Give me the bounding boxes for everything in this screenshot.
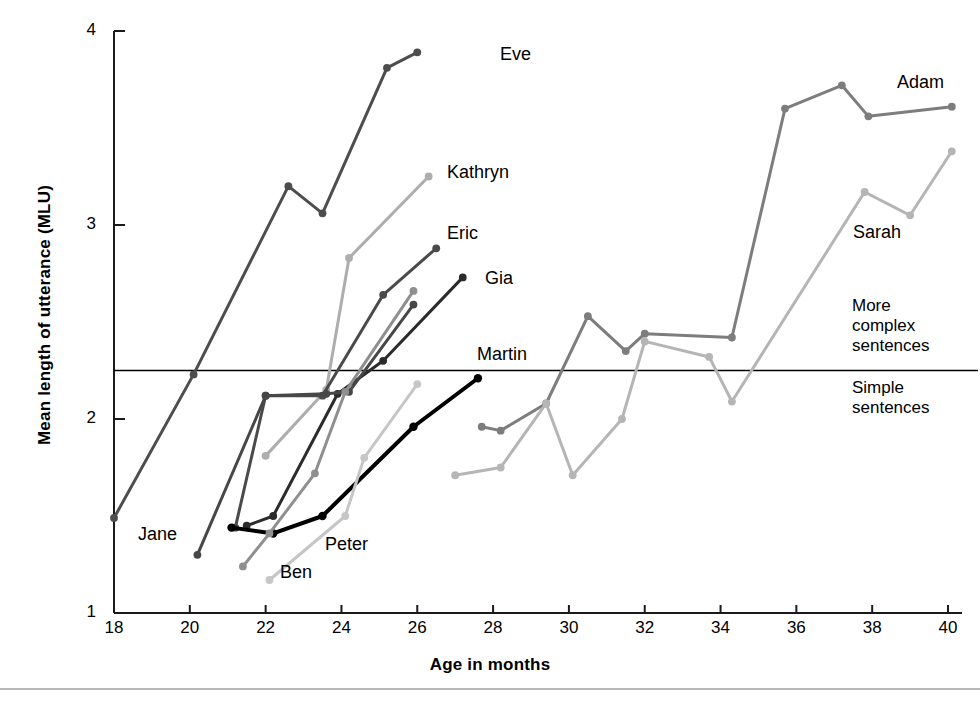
x-tick-36: 36 — [776, 618, 816, 638]
x-tick-24: 24 — [321, 618, 361, 638]
series-label-adam: Adam — [897, 72, 944, 93]
series-label-jane: Jane — [138, 524, 177, 545]
x-tick-26: 26 — [397, 618, 437, 638]
x-tick-22: 22 — [246, 618, 286, 638]
y-tick-3: 3 — [76, 214, 96, 234]
series-label-eric: Eric — [447, 223, 478, 244]
series-label-peter: Peter — [325, 534, 368, 555]
series-label-ben: Ben — [280, 562, 312, 583]
zone-label-more-complex: More complex sentences — [852, 296, 930, 356]
x-tick-38: 38 — [852, 618, 892, 638]
x-tick-18: 18 — [94, 618, 134, 638]
x-tick-32: 32 — [625, 618, 665, 638]
x-axis-title: Age in months — [0, 655, 980, 675]
series-label-eve: Eve — [500, 44, 531, 65]
y-tick-2: 2 — [76, 408, 96, 428]
zone-label-simple: Simple sentences — [852, 378, 930, 418]
x-tick-30: 30 — [549, 618, 589, 638]
y-axis-title: Mean length of utterance (MLU) — [35, 55, 55, 575]
figure-bottom-rule — [0, 688, 980, 690]
series-lines — [110, 48, 956, 583]
series-label-kathryn: Kathryn — [447, 162, 509, 183]
axes — [114, 31, 962, 613]
x-tick-40: 40 — [928, 618, 968, 638]
y-tick-4: 4 — [76, 20, 96, 40]
series-label-gia: Gia — [485, 268, 513, 289]
x-tick-20: 20 — [170, 618, 210, 638]
series-label-sarah: Sarah — [853, 222, 901, 243]
series-label-martin: Martin — [477, 344, 527, 365]
chart-figure: Age in months Mean length of utterance (… — [0, 0, 980, 702]
y-tick-1: 1 — [76, 602, 96, 622]
x-tick-34: 34 — [701, 618, 741, 638]
x-tick-28: 28 — [473, 618, 513, 638]
